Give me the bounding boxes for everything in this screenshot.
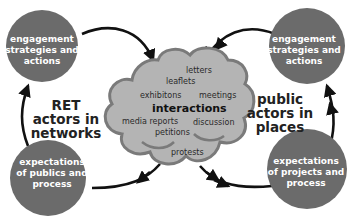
arrow-bottomleft-to-topleft	[22, 86, 28, 146]
svg-text:interactions: interactions	[152, 102, 227, 115]
svg-text:publicactors inplaces: publicactors inplaces	[247, 91, 313, 135]
svg-text:media reports: media reports	[122, 117, 178, 126]
svg-text:RETactors innetworks: RETactors innetworks	[31, 97, 102, 141]
node-top-left: engagementstrategies andactions	[5, 10, 79, 82]
svg-text:petitions: petitions	[155, 128, 190, 137]
node-top-right: engagementstrategies andactions	[267, 8, 345, 84]
arrow-cloud-to-bottomleft	[92, 164, 160, 188]
label-public-actors: publicactors inplaces	[247, 91, 313, 135]
interactions-cloud: letters leaflets exhibitons meetings int…	[105, 48, 254, 164]
arrow-topleft-to-cloud	[82, 28, 153, 60]
svg-text:protests: protests	[171, 148, 204, 157]
svg-text:discussion: discussion	[193, 118, 234, 127]
node-bottom-right: expectationsof projects andprocess	[267, 129, 347, 209]
svg-text:leaflets: leaflets	[166, 77, 195, 86]
node-bottom-left: expectationsof publics andprocess	[10, 140, 88, 216]
svg-text:exhibitons: exhibitons	[140, 91, 181, 100]
svg-text:meetings: meetings	[199, 91, 236, 100]
engagement-diagram: engagementstrategies andactions expectat…	[0, 0, 357, 220]
label-ret-actors: RETactors innetworks	[31, 97, 102, 141]
svg-text:letters: letters	[186, 66, 212, 75]
